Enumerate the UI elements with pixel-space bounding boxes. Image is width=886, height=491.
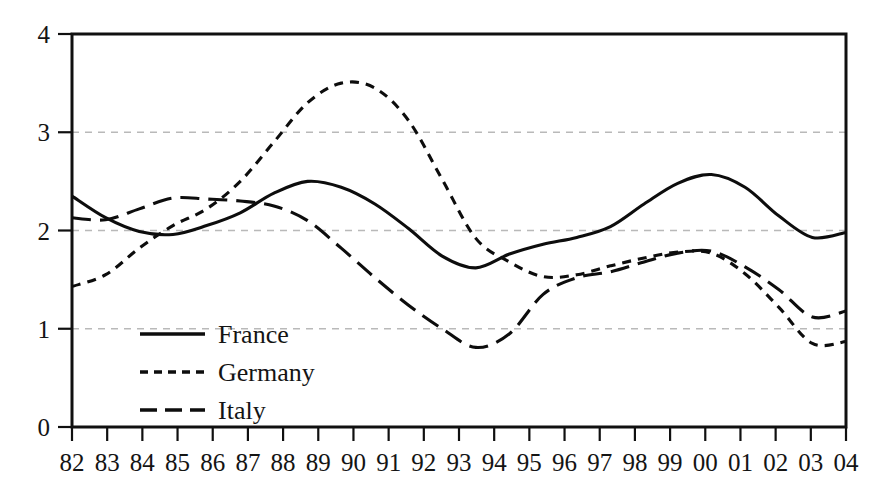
x-tick-label: 00 — [693, 449, 718, 476]
y-tick-label: 2 — [38, 218, 51, 245]
x-tick-label: 03 — [798, 449, 823, 476]
y-tick-label: 3 — [38, 119, 51, 146]
x-tick-label: 96 — [552, 449, 577, 476]
y-tick-label: 4 — [38, 21, 51, 48]
series-line-italy — [72, 197, 846, 347]
x-tick-label: 98 — [622, 449, 647, 476]
x-tick-label: 02 — [763, 449, 788, 476]
legend-label-france: France — [218, 320, 289, 349]
series-line-germany — [72, 82, 846, 346]
line-chart-figure: FranceGermanyItaly 01234 828384858687888… — [0, 0, 886, 491]
data-series-group — [72, 82, 846, 348]
y-tick-label: 0 — [38, 414, 51, 441]
x-tick-label: 85 — [165, 449, 190, 476]
x-axis-tick-group — [72, 427, 846, 441]
x-tick-label: 88 — [271, 449, 296, 476]
x-axis-label-group: 8283848586878889909192939495969798990001… — [60, 449, 860, 476]
chart-legend: FranceGermanyItaly — [140, 320, 315, 425]
x-tick-label: 89 — [306, 449, 331, 476]
y-tick-label: 1 — [38, 316, 51, 343]
x-tick-label: 01 — [728, 449, 753, 476]
x-tick-label: 04 — [834, 449, 860, 476]
x-tick-label: 83 — [95, 449, 120, 476]
x-tick-label: 91 — [376, 449, 401, 476]
x-tick-label: 95 — [517, 449, 542, 476]
chart-canvas: FranceGermanyItaly 01234 828384858687888… — [0, 0, 886, 491]
x-tick-label: 94 — [482, 449, 508, 476]
y-axis-tick-group — [58, 34, 72, 427]
x-tick-label: 92 — [411, 449, 436, 476]
x-tick-label: 97 — [587, 449, 612, 476]
x-tick-label: 99 — [658, 449, 683, 476]
x-tick-label: 86 — [200, 449, 225, 476]
x-tick-label: 84 — [130, 449, 156, 476]
x-tick-label: 87 — [235, 449, 260, 476]
y-axis-label-group: 01234 — [38, 21, 51, 441]
x-tick-label: 90 — [341, 449, 366, 476]
x-tick-label: 93 — [447, 449, 472, 476]
legend-label-germany: Germany — [218, 358, 315, 387]
x-tick-label: 82 — [60, 449, 85, 476]
legend-label-italy: Italy — [218, 396, 266, 425]
series-line-france — [72, 174, 846, 267]
